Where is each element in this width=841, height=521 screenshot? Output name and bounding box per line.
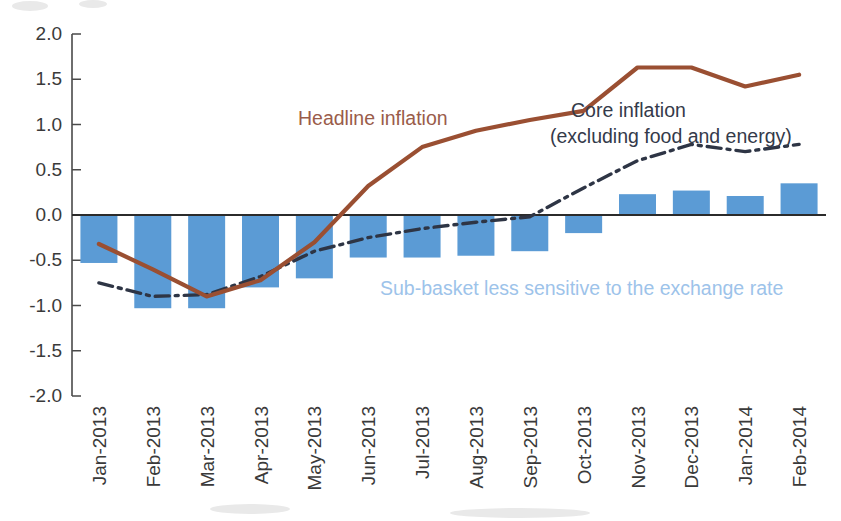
y-axis-tick-label: 1.5 — [36, 68, 62, 89]
y-axis-tick-label: 1.0 — [36, 114, 62, 135]
annotation-subbasket: Sub-basket less sensitive to the exchang… — [380, 277, 783, 299]
y-axis-tick-label: 0.5 — [36, 159, 62, 180]
annotation-headline-inflation: Headline inflation — [298, 107, 448, 129]
bar — [727, 196, 764, 215]
bar — [781, 183, 818, 215]
x-axis-tick-label: Nov-2013 — [628, 406, 649, 488]
x-axis-tick-label: Aug-2013 — [466, 406, 487, 488]
x-axis-tick-label: Dec-2013 — [681, 406, 702, 488]
x-axis-tick-label: Sep-2013 — [520, 406, 541, 488]
x-axis-tick-label: May-2013 — [304, 406, 325, 491]
y-axis-tick-label: 0.0 — [36, 204, 62, 225]
x-axis-tick-label: Feb-2013 — [143, 406, 164, 487]
bar — [511, 215, 548, 251]
x-axis-tick-label: Feb-2014 — [789, 406, 810, 488]
x-axis-tick-label: Apr-2013 — [251, 406, 272, 484]
bar — [404, 215, 441, 258]
x-axis-tick-label: Jan-2014 — [735, 406, 756, 486]
x-axis-tick-label: Jul-2013 — [412, 406, 433, 479]
annotation-core-inflation-sub: (excluding food and energy) — [550, 125, 792, 147]
x-axis-tick-label: Mar-2013 — [197, 406, 218, 487]
y-axis-tick-labels: 2.01.51.00.50.0-0.5-1.0-1.5-2.0 — [29, 23, 62, 406]
x-axis-tick-labels: Jan-2013Feb-2013Mar-2013Apr-2013May-2013… — [89, 406, 810, 491]
y-axis-tick-label: -2.0 — [29, 385, 62, 406]
y-axis-tick-label: -1.5 — [29, 340, 62, 361]
y-axis-tick-label: 2.0 — [36, 23, 62, 44]
inflation-chart: 2.01.51.00.50.0-0.5-1.0-1.5-2.0 Headline… — [0, 0, 841, 521]
x-axis-tick-label: Jun-2013 — [358, 406, 379, 485]
y-axis-tick-label: -0.5 — [29, 249, 62, 270]
x-axis-tick-label: Oct-2013 — [574, 406, 595, 484]
bar — [565, 215, 602, 233]
annotation-core-inflation: Core inflation — [571, 99, 686, 121]
bar — [619, 194, 656, 215]
chart-svg: 2.01.51.00.50.0-0.5-1.0-1.5-2.0 Headline… — [0, 0, 841, 521]
bar — [80, 215, 117, 263]
x-axis-tick-label: Jan-2013 — [89, 406, 110, 485]
y-axis-tick-label: -1.0 — [29, 295, 62, 316]
bar — [673, 191, 710, 215]
